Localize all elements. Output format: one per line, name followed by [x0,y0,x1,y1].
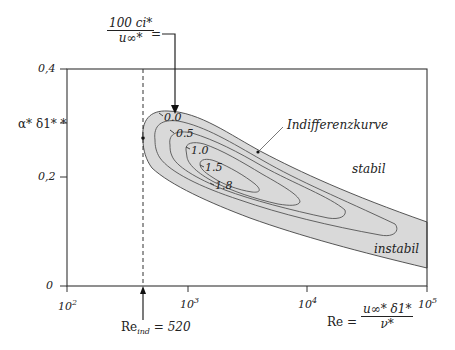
x-axis-label-denominator: ν* [361,317,413,331]
x-tick-1e4: 104 [298,296,317,311]
x-ticks [67,286,427,292]
top-annotation-arrow [162,34,175,106]
critical-point [141,136,145,140]
stable-region-label: stabil [352,162,386,176]
y-ticks [60,69,67,286]
neutral-curve-point [256,150,259,153]
contour-label-1-0: 1.0 [191,144,209,157]
top-annotation-fraction: 100 ci* u∞* [107,16,154,45]
x-axis-label-numerator: u∞* δ1* [361,302,413,317]
unstable-region-label: instabil [374,242,419,256]
contour-label-0-5: 0.5 [176,127,194,140]
critical-re-label: Reind = 520 [121,320,191,336]
x-axis-label-lhs: Re = [327,315,357,329]
neutral-curve-leader [258,127,283,152]
y-tick-0-4: 0,4 [38,62,56,75]
x-tick-1e2: 102 [58,298,77,313]
y-tick-0: 0 [46,279,53,292]
y-axis-label: α* δ1* * [18,117,67,131]
x-tick-1e5: 105 [418,296,437,311]
contour-label-1-5: 1.5 [205,161,223,174]
x-axis-label-fraction: u∞* δ1* ν* [361,302,413,331]
top-annotation-equals: = [151,27,161,41]
contour-label-1-8: 1.8 [215,179,233,192]
top-annotation-denominator: u∞* [107,31,154,45]
re-ind-arrow-head [140,286,146,294]
x-tick-1e3: 103 [180,296,199,311]
neutral-curve-label: Indifferenzkurve [287,118,388,132]
contour-label-0-0: 0.0 [164,111,182,124]
top-annotation-numerator: 100 ci* [107,16,154,31]
y-tick-0-2: 0,2 [38,170,56,183]
